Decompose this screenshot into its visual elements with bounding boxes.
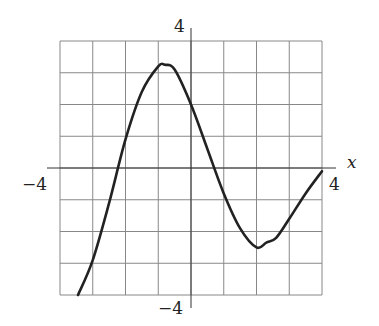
function-graph: [0, 0, 379, 326]
y-min-label: −4: [158, 298, 183, 318]
x-max-label: 4: [329, 174, 340, 194]
x-axis-label: x: [347, 152, 357, 172]
y-max-label: 4: [174, 16, 185, 36]
x-min-label: −4: [22, 174, 47, 194]
function-curve: [78, 64, 322, 295]
